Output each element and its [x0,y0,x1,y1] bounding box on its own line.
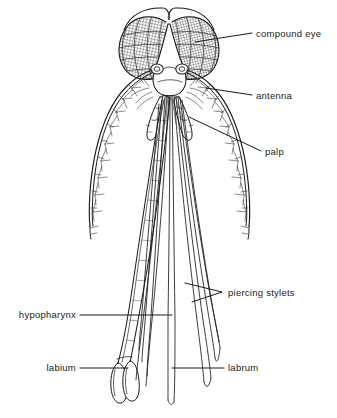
label-antenna: antenna [256,90,293,101]
label-palp: palp [265,146,284,157]
left-socket-inner [154,67,160,72]
label-compound-eye: compound eye [256,28,321,39]
label-piercing-stylets: piercing stylets [228,287,295,298]
diagram-canvas: compound eye antenna palp piercing style… [0,0,337,418]
mosquito-head-diagram: compound eye antenna palp piercing style… [0,0,337,418]
label-labrum: labrum [228,362,259,373]
label-hypopharynx: hypopharynx [19,309,76,320]
label-labium: labium [47,362,77,373]
right-socket-inner [179,67,185,72]
